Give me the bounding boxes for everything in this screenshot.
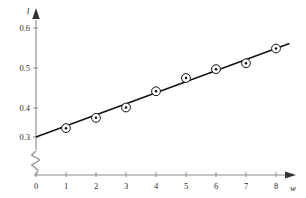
x-tick-label-4: 4	[154, 181, 159, 191]
data-point	[152, 87, 161, 96]
x-axis-title: w	[290, 183, 296, 193]
y-axis-title: l	[27, 6, 30, 16]
data-point-center-dot	[215, 68, 218, 71]
x-tick-label-8: 8	[274, 181, 278, 191]
x-tick-label-3: 3	[124, 181, 128, 191]
data-point-center-dot	[155, 90, 158, 93]
data-point-layer	[62, 44, 281, 132]
x-tick-label-0: 0	[34, 181, 38, 191]
data-point	[212, 65, 221, 74]
fitted-regression-line	[36, 43, 290, 137]
x-tick-label-6: 6	[214, 181, 218, 191]
x-tick-label-2: 2	[94, 181, 98, 191]
chart-container: 0.6 0.5 0.4 0.3 0 1 2 3 4 5 6 7 8	[0, 0, 306, 198]
x-axis-arrowhead	[285, 171, 296, 178]
y-tick-label-0.5: 0.5	[19, 63, 30, 73]
data-point	[272, 44, 281, 53]
y-tick-label-0.4: 0.4	[19, 103, 30, 113]
data-point-center-dot	[185, 77, 188, 80]
data-point-center-dot	[95, 117, 98, 120]
data-point-center-dot	[245, 62, 248, 65]
x-tick-label-5: 5	[184, 181, 188, 191]
x-tick-label-1: 1	[64, 181, 68, 191]
data-point	[92, 113, 101, 122]
data-point-center-dot	[275, 47, 278, 50]
fit-line-group	[36, 43, 290, 137]
data-point	[242, 59, 251, 68]
data-point	[182, 74, 191, 83]
y-axis-break-icon	[32, 151, 41, 175]
data-point	[122, 103, 131, 112]
scatter-plot-svg: 0.6 0.5 0.4 0.3 0 1 2 3 4 5 6 7 8	[0, 0, 306, 198]
y-tick-group: 0.6 0.5 0.4 0.3	[19, 23, 38, 142]
data-point-center-dot	[65, 127, 68, 130]
data-point-center-dot	[125, 106, 128, 109]
y-tick-label-0.3: 0.3	[19, 132, 30, 142]
data-point	[62, 124, 71, 133]
y-tick-label-0.6: 0.6	[19, 23, 30, 33]
y-axis-arrowhead	[32, 8, 39, 19]
x-tick-label-7: 7	[244, 181, 248, 191]
axis-group	[32, 8, 297, 179]
